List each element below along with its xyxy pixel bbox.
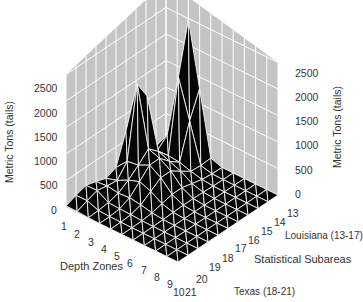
depth-tick-4: 4	[101, 244, 107, 255]
z-tick-right-0: 0	[295, 189, 301, 200]
depth-tick-9: 9	[167, 279, 173, 290]
z-tick-left-1000: 1000	[34, 156, 57, 167]
z-tick-left-2500: 2500	[34, 83, 57, 94]
depth-tick-10: 10	[173, 287, 185, 298]
subarea-tick-15: 15	[261, 226, 273, 237]
subarea-tick-14: 14	[274, 217, 286, 228]
subarea-tick-19: 19	[209, 262, 221, 273]
z-axis-label-left: Metric Tons (tails)	[3, 101, 15, 183]
texas-label: Texas (18-21)	[234, 287, 295, 297]
z-axis-label-right: Metric Tons (tails)	[331, 86, 343, 168]
depth-tick-1: 1	[61, 221, 67, 232]
subarea-tick-17: 17	[235, 243, 247, 254]
subarea-tick-16: 16	[248, 235, 260, 246]
z-tick-left-2000: 2000	[34, 108, 57, 119]
louisiana-label: Louisiana (13-17)	[285, 231, 363, 241]
z-tick-left-0: 0	[51, 205, 57, 216]
depth-tick-3: 3	[88, 237, 94, 248]
z-tick-left-1500: 1500	[34, 132, 57, 143]
z-tick-right-1500: 1500	[295, 116, 318, 127]
depth-tick-2: 2	[74, 229, 80, 240]
subarea-tick-13: 13	[287, 208, 299, 219]
z-tick-right-500: 500	[295, 165, 313, 176]
z-tick-right-2000: 2000	[295, 92, 318, 103]
subarea-tick-20: 20	[196, 274, 208, 285]
subarea-tick-21: 21	[185, 287, 197, 298]
subarea-axis-label: Statistical Subareas	[254, 254, 351, 265]
z-tick-right-1000: 1000	[295, 140, 318, 151]
depth-tick-6: 6	[127, 258, 133, 269]
depth-axis-label: Depth Zones	[60, 261, 123, 272]
z-tick-right-2500: 2500	[295, 68, 318, 79]
subarea-tick-18: 18	[222, 253, 234, 264]
z-tick-left-500: 500	[40, 180, 58, 191]
depth-tick-7: 7	[141, 265, 147, 276]
depth-tick-8: 8	[154, 272, 160, 283]
